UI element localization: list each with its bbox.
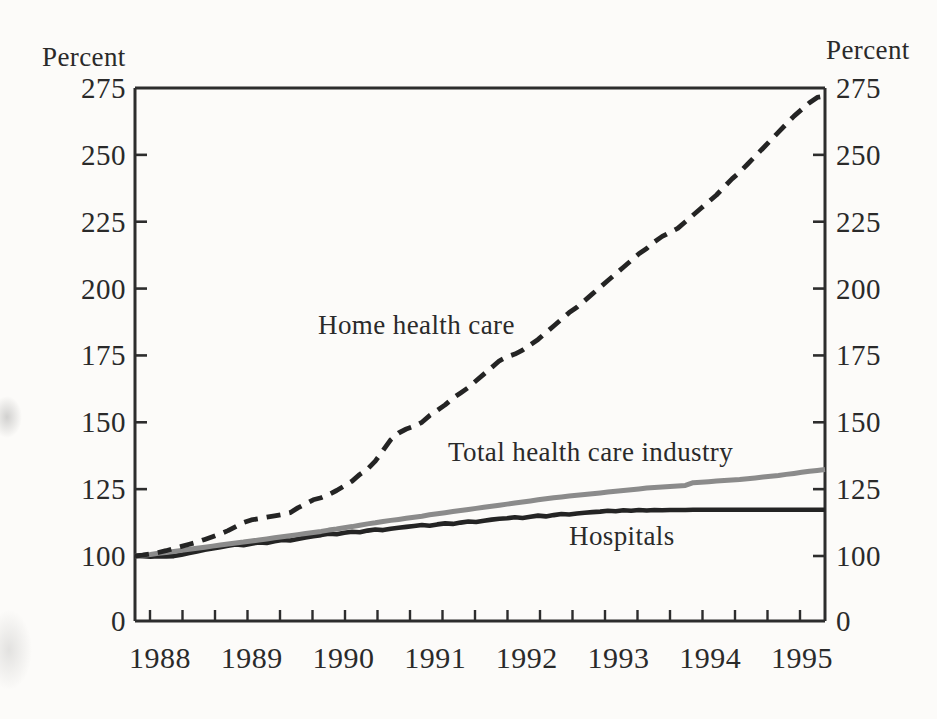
y-tick-label-right: 150 (836, 406, 881, 438)
x-tick-label-year: 1993 (588, 641, 650, 674)
y-tick-label-left: 150 (81, 406, 126, 438)
y-tick-label-right: 200 (836, 273, 881, 305)
x-tick-label-year: 1994 (679, 641, 741, 674)
line-hospitals (135, 510, 825, 557)
x-tick-label-year: 1990 (312, 641, 374, 674)
y-tick-label-right: 175 (836, 339, 881, 371)
y-tick-label-right: 0 (836, 605, 851, 637)
x-tick-label-year: 1988 (129, 641, 191, 674)
y-tick-label-left: 275 (81, 72, 126, 104)
y-tick-label-right: 125 (836, 473, 881, 505)
y-tick-label-left: 225 (81, 206, 126, 238)
scanned-chart-page: Percent Percent 001001001251251501501751… (0, 0, 937, 719)
series-label-home-health-care: Home health care (318, 310, 515, 341)
y-tick-label-right: 250 (836, 139, 881, 171)
series-label-hospitals: Hospitals (569, 521, 675, 552)
y-tick-label-right: 100 (836, 540, 881, 572)
line-chart-canvas: 0010010012512515015017517520020022522525… (0, 0, 937, 719)
y-tick-label-right: 225 (836, 206, 881, 238)
y-tick-label-right: 275 (836, 72, 881, 104)
x-tick-label-year: 1991 (404, 641, 466, 674)
series-label-total-health-care-industry: Total health care industry (448, 437, 733, 468)
y-tick-label-left: 175 (81, 339, 126, 371)
y-tick-label-left: 250 (81, 139, 126, 171)
x-tick-label-year: 1992 (496, 641, 558, 674)
y-tick-label-left: 125 (81, 473, 126, 505)
y-tick-label-left: 200 (81, 273, 126, 305)
line-total-health-care-industry (135, 470, 825, 556)
y-tick-label-left: 0 (111, 605, 126, 637)
x-tick-label-year: 1995 (771, 641, 833, 674)
x-tick-label-year: 1989 (221, 641, 283, 674)
y-tick-label-left: 100 (81, 540, 126, 572)
